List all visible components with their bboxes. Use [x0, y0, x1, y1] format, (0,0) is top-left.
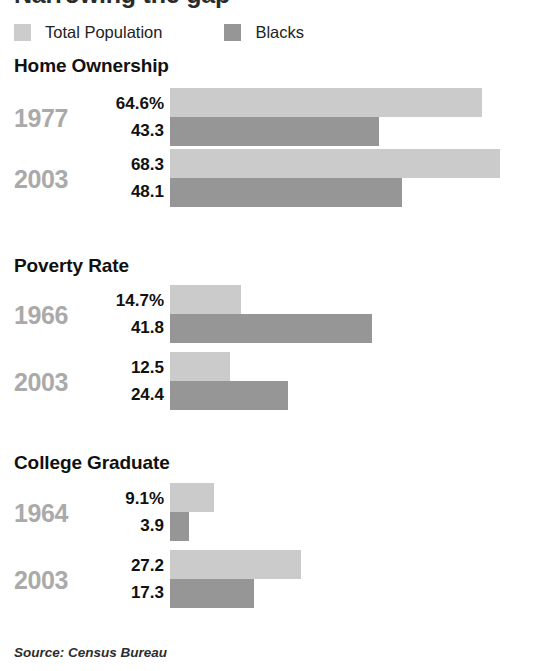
group-year-label: 2003: [14, 166, 98, 192]
bar-total-population: [170, 550, 301, 579]
section-title: Home Ownership: [14, 55, 169, 77]
value-label-blacks: 41.8: [96, 318, 164, 338]
value-label-total-population: 64.6%: [96, 94, 164, 114]
group-value-labels: 27.217.3: [96, 550, 164, 608]
group-year-label: 1977: [14, 105, 98, 131]
bar-total-population: [170, 483, 214, 512]
legend-label-total-population: Total Population: [45, 23, 162, 42]
bar-group: 200368.348.1: [0, 149, 539, 207]
bar-blacks: [170, 381, 288, 410]
value-label-total-population: 9.1%: [96, 489, 164, 509]
value-label-total-population: 68.3: [96, 155, 164, 175]
bar-blacks: [170, 117, 379, 146]
bar-total-population: [170, 149, 500, 178]
bar-blacks: [170, 314, 372, 343]
value-label-total-population: 27.2: [96, 556, 164, 576]
bar-group: 200312.524.4: [0, 352, 539, 410]
legend-item-blacks: Blacks: [224, 23, 304, 42]
group-year-label: 2003: [14, 369, 98, 395]
bar-blacks: [170, 512, 189, 541]
group-year-label: 2003: [14, 567, 98, 593]
source-note: Source: Census Bureau: [14, 645, 167, 660]
bar-total-population: [170, 352, 230, 381]
chart-legend: Total Population Blacks: [14, 20, 304, 44]
value-label-blacks: 17.3: [96, 583, 164, 603]
group-value-labels: 14.7%41.8: [96, 285, 164, 343]
clipped-chart-title-text: Narrowing the gap: [14, 0, 230, 9]
bar-total-population: [170, 88, 482, 117]
value-label-total-population: 12.5: [96, 358, 164, 378]
value-label-blacks: 43.3: [96, 121, 164, 141]
section-title: Poverty Rate: [14, 255, 129, 277]
value-label-blacks: 3.9: [96, 516, 164, 536]
clipped-chart-title: Narrowing the gap: [14, 0, 314, 12]
bar-blacks: [170, 178, 402, 207]
legend-label-blacks: Blacks: [255, 23, 304, 42]
bar-group: 19649.1%3.9: [0, 483, 539, 541]
bar-total-population: [170, 285, 241, 314]
group-value-labels: 12.524.4: [96, 352, 164, 410]
bar-group: 200327.217.3: [0, 550, 539, 608]
group-year-label: 1966: [14, 302, 98, 328]
bar-blacks: [170, 579, 254, 608]
chart-root: Narrowing the gap Total Population Black…: [0, 0, 539, 671]
bar-group: 196614.7%41.8: [0, 285, 539, 343]
value-label-blacks: 24.4: [96, 385, 164, 405]
bar-group: 197764.6%43.3: [0, 88, 539, 146]
value-label-total-population: 14.7%: [96, 291, 164, 311]
group-value-labels: 9.1%3.9: [96, 483, 164, 541]
group-value-labels: 68.348.1: [96, 149, 164, 207]
legend-item-total-population: Total Population: [14, 23, 162, 42]
group-value-labels: 64.6%43.3: [96, 88, 164, 146]
legend-swatch-icon-blacks: [224, 24, 241, 41]
section-title: College Graduate: [14, 452, 170, 474]
value-label-blacks: 48.1: [96, 182, 164, 202]
group-year-label: 1964: [14, 500, 98, 526]
legend-swatch-icon-total-population: [14, 24, 31, 41]
